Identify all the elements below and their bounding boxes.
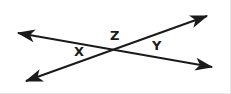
bottom-edge-divider: [0, 93, 231, 94]
angle-label-y: Y: [152, 39, 162, 52]
angle-label-z: Z: [110, 29, 120, 42]
angle-label-x: X: [74, 45, 84, 58]
line-lower-left-to-upper-right: [26, 16, 207, 81]
right-edge-divider: [230, 0, 231, 94]
intersecting-lines-drawing: [0, 0, 231, 94]
geometry-figure: Z X Y: [0, 0, 231, 94]
